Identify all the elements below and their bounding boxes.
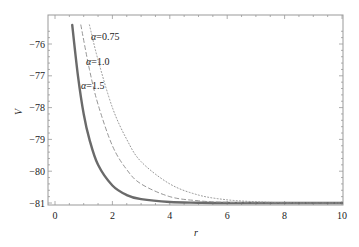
curve-annotations: α=0.75α=1.0α=1.5	[81, 31, 119, 91]
x-tick-label: 6	[225, 210, 230, 221]
curve-annotation: α=0.75	[91, 31, 119, 42]
x-tick-label: 0	[53, 210, 58, 221]
curve-dotted	[89, 25, 342, 203]
y-tick-label: −78	[29, 102, 45, 113]
y-axis-label: V	[13, 107, 24, 115]
y-tick-label: −79	[29, 134, 45, 145]
y-tick-label: −80	[29, 166, 45, 177]
chart-canvas: 0246810−76−77−78−79−80−81 α=0.75α=1.0α=1…	[0, 0, 359, 247]
curve-solid-thick	[72, 25, 342, 203]
curve-annotation: α=1.5	[81, 80, 104, 91]
x-tick-label: 2	[110, 210, 115, 221]
plot-frame	[48, 15, 343, 205]
x-tick-label: 10	[337, 210, 347, 221]
axis-ticks	[48, 15, 343, 205]
x-tick-label: 8	[282, 210, 287, 221]
y-tick-label: −81	[29, 198, 45, 209]
x-tick-label: 4	[167, 210, 172, 221]
data-curves	[72, 25, 342, 203]
x-axis-label: r	[194, 227, 198, 238]
y-tick-label: −76	[29, 39, 45, 50]
curve-annotation: α=1.0	[86, 56, 109, 67]
y-tick-label: −77	[29, 70, 45, 81]
curve-dashed	[81, 25, 342, 203]
